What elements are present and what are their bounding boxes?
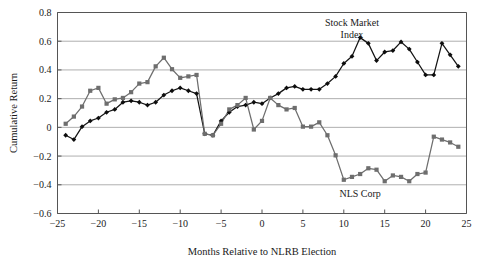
data-point	[309, 87, 314, 92]
data-point	[350, 175, 354, 179]
data-point	[186, 74, 190, 78]
data-point	[293, 106, 297, 110]
data-point	[129, 90, 133, 94]
data-point	[194, 91, 199, 96]
data-point	[162, 56, 166, 60]
data-point	[260, 119, 264, 123]
data-point	[235, 103, 239, 107]
data-point	[145, 80, 149, 84]
data-point	[219, 122, 223, 126]
figure-container: −25−20−15−10−50510152025 −0.6−0.4−0.200.…	[0, 0, 489, 266]
y-axis-ticks	[58, 13, 62, 214]
data-point	[334, 153, 338, 157]
plot-frame	[58, 13, 467, 214]
data-point	[227, 107, 231, 111]
chart-annotations: Stock MarketIndexNLS Corp	[325, 17, 381, 199]
data-point	[113, 97, 117, 101]
x-tick-label--15: −15	[131, 218, 147, 229]
data-point	[342, 178, 346, 182]
data-point	[154, 64, 158, 68]
data-point	[178, 85, 183, 90]
data-point	[104, 102, 108, 106]
data-point	[432, 135, 436, 139]
data-point	[211, 133, 215, 137]
data-point	[301, 125, 305, 129]
top-partial-text	[60, 0, 240, 5]
data-point	[96, 86, 100, 90]
nls-corp-label: NLS Corp	[339, 188, 380, 199]
x-tick-label-0: 0	[260, 218, 265, 229]
data-point	[391, 173, 395, 177]
data-point	[440, 137, 444, 141]
data-point	[72, 114, 76, 118]
x-tick-label--5: −5	[216, 218, 227, 229]
data-point	[301, 87, 306, 92]
data-point	[292, 84, 297, 89]
data-point	[203, 132, 207, 136]
series-line-stock-market-index	[66, 38, 459, 140]
y-tick-label-0.8: 0.8	[39, 7, 52, 18]
data-point	[145, 103, 150, 108]
cumulative-return-line-chart: −25−20−15−10−50510152025 −0.6−0.4−0.200.…	[0, 0, 489, 266]
data-point	[121, 96, 125, 100]
data-point	[80, 104, 84, 108]
data-point	[268, 96, 272, 100]
data-point	[276, 103, 280, 107]
y-tick-label-0.4: 0.4	[39, 64, 52, 75]
data-point	[399, 175, 403, 179]
data-point	[137, 100, 142, 105]
data-point	[251, 100, 256, 105]
x-tick-label--10: −10	[172, 218, 188, 229]
data-point	[64, 122, 68, 126]
x-tick-label-20: 20	[421, 218, 431, 229]
x-axis-ticks	[58, 210, 467, 214]
y-tick-label--0.4: −0.4	[33, 179, 51, 190]
data-point	[431, 73, 436, 78]
stock-market-index-label-2: Index	[341, 29, 364, 40]
x-tick-label-15: 15	[380, 218, 390, 229]
data-point	[374, 168, 378, 172]
data-point	[186, 88, 191, 93]
data-point	[252, 127, 256, 131]
x-tick-label--20: −20	[91, 218, 107, 229]
y-tick-label--0.2: −0.2	[33, 151, 51, 162]
stock-market-index-label: Stock Market	[325, 17, 379, 28]
series-lines	[66, 38, 459, 182]
data-point	[63, 133, 68, 138]
data-point	[456, 145, 460, 149]
data-point	[309, 125, 313, 129]
data-point	[88, 89, 92, 93]
y-tick-label-0.6: 0.6	[39, 36, 52, 47]
x-axis-title: Months Relative to NLRB Election	[188, 246, 337, 257]
data-point	[448, 140, 452, 144]
y-axis-title: Cumulative Return	[8, 72, 19, 153]
data-point	[366, 166, 370, 170]
data-point	[129, 98, 134, 103]
data-point	[284, 107, 288, 111]
data-point	[415, 172, 419, 176]
x-tick-label-25: 25	[462, 218, 472, 229]
data-point	[178, 76, 182, 80]
y-tick-label-0.2: 0.2	[39, 93, 52, 104]
data-point	[170, 88, 175, 93]
data-point	[424, 170, 428, 174]
series-markers	[63, 35, 460, 183]
data-point	[358, 172, 362, 176]
data-point	[325, 133, 329, 137]
data-point	[137, 81, 141, 85]
y-tick-label--0.6: −0.6	[33, 208, 51, 219]
data-point	[244, 96, 248, 100]
data-point	[194, 73, 198, 77]
x-axis-tick-labels: −25−20−15−10−50510152025	[50, 218, 472, 229]
x-tick-label-10: 10	[339, 218, 349, 229]
y-tick-label-0: 0	[47, 122, 52, 133]
data-point	[317, 120, 321, 124]
x-tick-label--25: −25	[50, 218, 66, 229]
data-point	[383, 179, 387, 183]
y-axis-tick-labels: −0.6−0.4−0.200.20.40.60.8	[33, 7, 51, 219]
data-point	[170, 67, 174, 71]
x-tick-label-5: 5	[300, 218, 305, 229]
data-point	[407, 179, 411, 183]
